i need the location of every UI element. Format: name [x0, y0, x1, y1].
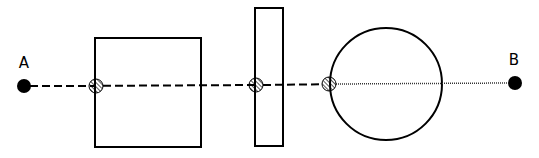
hatched-marker-1 [89, 79, 103, 93]
dotted-path-b [336, 83, 508, 84]
tall-rectangle-shape [255, 8, 283, 146]
point-b-label: B [509, 51, 519, 69]
point-a: A [17, 54, 31, 93]
dashed-path-a [30, 84, 322, 86]
point-a-label: A [19, 54, 30, 72]
point-b: B [508, 51, 522, 90]
diagram-canvas: A B [0, 0, 539, 158]
hatched-marker-2 [249, 78, 263, 92]
square-shape [95, 38, 201, 147]
hatched-marker-3 [322, 77, 336, 91]
